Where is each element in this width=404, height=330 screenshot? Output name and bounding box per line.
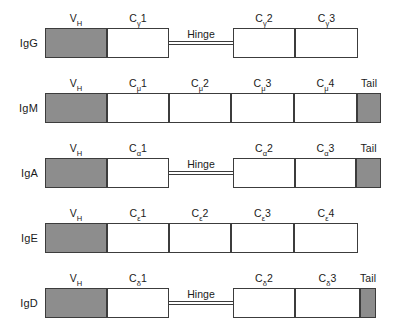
isotype-label: IgG xyxy=(2,37,38,49)
domain-box-constant-delta-2 xyxy=(233,288,295,318)
domain-label-number: 1 xyxy=(141,142,147,154)
domain-label-number: 3 xyxy=(265,207,271,219)
domain-label-variable-heavy: VH xyxy=(45,13,107,24)
domain-box-constant-alpha-2 xyxy=(233,158,295,188)
domain-label-constant-alpha-1: Cα1 xyxy=(107,143,169,154)
domain-box-constant-mu-1 xyxy=(107,93,169,123)
domain-box-variable-heavy xyxy=(45,223,107,253)
domain-label-subscript: ε xyxy=(325,214,328,223)
domain-box-constant-delta-3 xyxy=(295,288,360,318)
isotype-label: IgD xyxy=(2,297,38,309)
isotype-label: IgM xyxy=(2,102,38,114)
domain-box-variable-heavy xyxy=(45,158,107,188)
domain-box-constant-mu-2 xyxy=(169,93,231,123)
domain-label-base: Tail xyxy=(360,272,376,284)
domain-label-subscript: γ xyxy=(325,19,329,28)
domain-label-constant-delta-3: Cδ3 xyxy=(295,273,360,284)
domain-label-subscript: H xyxy=(77,279,83,288)
domain-label-base: C xyxy=(254,207,262,219)
domain-label-subscript: δ xyxy=(263,279,267,288)
domain-box-constant-alpha-3 xyxy=(295,158,356,188)
domain-label-base: C xyxy=(129,142,137,154)
domain-box-constant-gamma-3 xyxy=(295,28,358,58)
domain-box-constant-gamma-2 xyxy=(233,28,295,58)
domain-label-tail-piece: Tail xyxy=(360,273,376,284)
immunoglobulin-isotype-diagram: IgGHingeVHCγ1Cγ2Cγ3IgMVHCμ1Cμ2Cμ3Cμ4Tail… xyxy=(0,0,404,330)
hinge-label: Hinge xyxy=(169,289,233,300)
domain-label-number: 1 xyxy=(141,12,147,24)
domain-label-base: V xyxy=(70,272,77,284)
domain-label-variable-heavy: VH xyxy=(45,273,107,284)
domain-label-constant-mu-2: Cμ2 xyxy=(169,78,231,89)
domain-label-base: V xyxy=(70,12,77,24)
domain-box-tail-piece xyxy=(360,288,376,318)
domain-box-variable-heavy xyxy=(45,93,107,123)
domain-label-base: V xyxy=(70,207,77,219)
hinge-label: Hinge xyxy=(169,29,233,40)
domain-label-base: C xyxy=(129,77,137,89)
domain-label-variable-heavy: VH xyxy=(45,78,107,89)
hinge-connector xyxy=(169,171,233,175)
domain-label-number: 2 xyxy=(203,207,209,219)
hinge-label: Hinge xyxy=(169,159,233,170)
domain-label-base: C xyxy=(191,207,199,219)
domain-box-constant-mu-3 xyxy=(231,93,294,123)
domain-label-base: C xyxy=(255,272,263,284)
domain-box-variable-heavy xyxy=(45,28,107,58)
domain-label-number: 2 xyxy=(267,12,273,24)
domain-label-subscript: α xyxy=(324,149,328,158)
domain-label-tail-piece: Tail xyxy=(356,143,381,154)
domain-label-constant-alpha-3: Cα3 xyxy=(295,143,356,154)
domain-label-variable-heavy: VH xyxy=(45,143,107,154)
domain-label-number: 3 xyxy=(329,142,335,154)
domain-label-constant-gamma-3: Cγ3 xyxy=(295,13,358,24)
domain-label-constant-mu-1: Cμ1 xyxy=(107,78,169,89)
domain-box-tail-piece xyxy=(356,158,381,188)
domain-label-base: C xyxy=(316,77,324,89)
domain-box-constant-mu-4 xyxy=(294,93,357,123)
domain-label-number: 3 xyxy=(266,77,272,89)
domain-label-base: Tail xyxy=(360,142,376,154)
domain-label-constant-delta-1: Cδ1 xyxy=(107,273,169,284)
domain-label-number: 1 xyxy=(141,272,147,284)
domain-label-number: 4 xyxy=(329,77,335,89)
domain-box-constant-gamma-1 xyxy=(107,28,169,58)
domain-label-number: 1 xyxy=(141,207,147,219)
domain-label-tail-piece: Tail xyxy=(357,78,381,89)
domain-label-base: C xyxy=(255,142,263,154)
domain-label-constant-gamma-2: Cγ2 xyxy=(233,13,295,24)
domain-label-subscript: δ xyxy=(326,279,330,288)
domain-box-tail-piece xyxy=(357,93,381,123)
domain-label-base: V xyxy=(70,142,77,154)
domain-box-constant-epsilon-1 xyxy=(107,223,169,253)
domain-label-constant-epsilon-3: Cε3 xyxy=(231,208,294,219)
domain-label-base: C xyxy=(317,207,325,219)
domain-label-subscript: H xyxy=(77,214,83,223)
isotype-label: IgA xyxy=(2,167,38,179)
domain-label-number: 3 xyxy=(331,272,337,284)
domain-label-base: C xyxy=(129,12,137,24)
domain-label-number: 4 xyxy=(329,207,335,219)
domain-box-constant-alpha-1 xyxy=(107,158,169,188)
domain-label-constant-epsilon-4: Cε4 xyxy=(294,208,358,219)
domain-box-constant-epsilon-4 xyxy=(294,223,358,253)
domain-label-constant-epsilon-2: Cε2 xyxy=(169,208,231,219)
domain-label-constant-mu-3: Cμ3 xyxy=(231,78,294,89)
domain-label-number: 2 xyxy=(267,142,273,154)
domain-label-subscript: μ xyxy=(137,84,141,93)
hinge-connector xyxy=(169,41,233,45)
domain-label-subscript: ε xyxy=(262,214,265,223)
domain-box-variable-heavy xyxy=(45,288,107,318)
domain-label-base: Tail xyxy=(361,77,377,89)
domain-label-subscript: γ xyxy=(137,19,141,28)
domain-label-constant-epsilon-1: Cε1 xyxy=(107,208,169,219)
domain-label-constant-alpha-2: Cα2 xyxy=(233,143,295,154)
domain-label-subscript: H xyxy=(77,149,83,158)
domain-box-constant-epsilon-3 xyxy=(231,223,294,253)
domain-label-constant-delta-2: Cδ2 xyxy=(233,273,295,284)
domain-label-subscript: δ xyxy=(137,279,141,288)
domain-label-base: C xyxy=(316,142,324,154)
domain-label-subscript: μ xyxy=(324,84,328,93)
domain-label-base: V xyxy=(70,77,77,89)
domain-label-number: 3 xyxy=(329,12,335,24)
